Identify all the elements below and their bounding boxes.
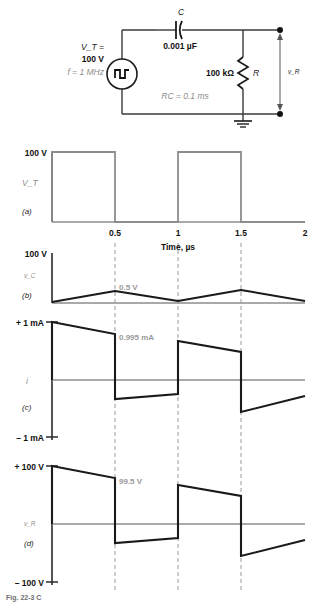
time-constant-label: RC = 0.1 ms — [161, 91, 209, 101]
panel-a-xtick-0: 0.5 — [109, 228, 121, 238]
panel-d-vr: + 100 V – 100 V v_R (d) 99.5 V — [14, 462, 305, 588]
panel-c-current: + 1 mA – 1 mA i (c) 0.995 mA — [16, 318, 305, 443]
source-label-amplitude: 100 V — [82, 54, 105, 64]
panel-a-xaxis-title: Time, µs — [161, 242, 195, 252]
source-label-vt: V_T = — [81, 42, 104, 52]
panel-d-annotation: 99.5 V — [119, 477, 143, 486]
source-label-frequency: f = 1 MHz — [67, 67, 104, 77]
circuit-diagram: C 0.001 µF 100 kΩ R v_R — [67, 7, 299, 127]
panel-d-waveform — [52, 466, 305, 556]
ground-icon — [234, 114, 252, 127]
voltage-source-symbol — [107, 59, 137, 89]
capacitor-plate-right — [180, 21, 182, 39]
panel-c-ytick-top: + 1 mA — [16, 318, 44, 328]
resistor-value-label: 100 kΩ — [206, 68, 234, 78]
output-voltage-arrow — [277, 33, 283, 111]
panel-a-xtick-1: 1 — [176, 228, 181, 238]
capacitor-ref-label: C — [178, 7, 185, 17]
capacitor-value-label: 0.001 µF — [163, 41, 197, 51]
panel-b-signal-label: v_C — [24, 272, 36, 279]
output-terminal-bottom — [277, 111, 283, 117]
panel-c-signal-label: i — [26, 376, 29, 386]
panel-a-waveform — [52, 152, 305, 222]
panel-d-signal-label: v_R — [24, 520, 36, 527]
panel-b-vc: 100 V v_C (b) 0.5 V — [22, 249, 305, 303]
panel-a-id: (a) — [22, 207, 32, 216]
panel-c-id: (c) — [22, 403, 32, 412]
panel-d-id: (d) — [24, 539, 34, 548]
output-terminal-top — [277, 27, 283, 33]
panel-b-ytick-top: 100 V — [25, 249, 48, 259]
panel-c-ytick-bottom: – 1 mA — [16, 433, 44, 443]
resistor-zigzag — [238, 57, 248, 89]
figure-rc-coupling-circuit-waveforms: C 0.001 µF 100 kΩ R v_R — [0, 0, 317, 602]
output-label-vr: v_R — [288, 68, 300, 75]
panel-b-id: (b) — [22, 291, 32, 300]
panel-a-vt: 100 V V_T (a) 0.5 1 1.5 2 Time, µs — [22, 148, 308, 252]
panel-d-ytick-top: + 100 V — [14, 462, 44, 472]
panel-d-ytick-bottom: – 100 V — [15, 578, 45, 588]
panel-c-annotation: 0.995 mA — [119, 333, 154, 342]
alignment-dashed-lines — [115, 243, 241, 592]
panel-a-signal-label: V_T — [22, 178, 38, 188]
resistor-ref-label: R — [253, 68, 259, 78]
panel-b-annotation: 0.5 V — [119, 283, 138, 292]
figure-caption: Fig. 22-3 C — [6, 594, 41, 602]
panel-a-ytick-top: 100 V — [25, 148, 48, 158]
panel-a-xtick-3: 2 — [303, 228, 308, 238]
panel-a-xtick-2: 1.5 — [235, 228, 247, 238]
